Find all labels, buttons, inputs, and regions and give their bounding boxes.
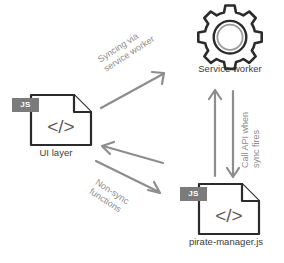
edge-syncing-via-service-worker [101,72,164,108]
node-pirate-manager[interactable]: </> [199,184,259,234]
js-badge: JS [180,187,207,201]
node-label-ui-layer: UI layer [0,147,112,158]
js-badge: JS [12,98,39,112]
edge-label-line: Call API when [240,112,251,168]
edge-label-line: sync fires [251,112,262,168]
edge-call-api-when-sync-fires [209,90,239,177]
diagram-canvas: </> </> [0,0,284,263]
gear-icon [198,6,261,69]
file-corner-fold-icon [74,95,91,112]
edge-line [101,74,163,108]
node-ui-layer[interactable]: </> [31,95,91,145]
node-label-service-worker: Service worker [176,63,284,74]
edge-line-to-ui [103,146,163,163]
edge-label-call-api-when-sync-fires: Call API when sync fires [240,112,261,168]
node-label-pirate-manager: pirate-manager.js [168,236,284,247]
node-service-worker[interactable] [198,6,261,69]
code-glyph-icon: </> [215,205,242,226]
code-glyph-icon: </> [47,116,74,137]
